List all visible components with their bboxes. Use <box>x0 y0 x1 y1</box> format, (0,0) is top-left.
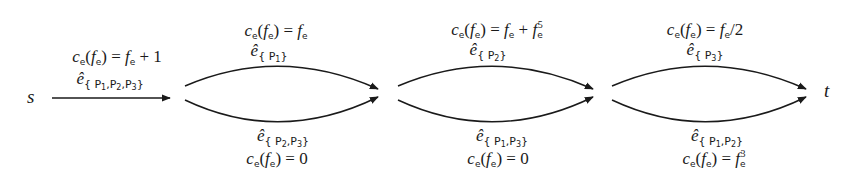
cost-label-P1P3: ce(fe) = 0 <box>467 150 528 169</box>
edge-arrow-P2P3 <box>185 97 378 122</box>
edge-label-P1P3: ê{ P1,P3} <box>476 127 528 149</box>
edge-arrow-P3 <box>612 66 806 89</box>
edge-label-P1P2P3: ê{ P1,P2,P3} <box>76 70 143 92</box>
cost-label-P1P2: ce(fe) = fe3 <box>682 149 745 169</box>
edge-label-P2P3: ê{ P2,P3} <box>257 127 309 149</box>
cost-label-P2: ce(fe) = fe + fe5 <box>451 20 542 40</box>
edge-arrow-P1 <box>185 66 378 89</box>
cost-label-P3: ce(fe) = fe/2 <box>667 21 743 40</box>
cost-label-P1: ce(fe) = fe <box>244 22 307 41</box>
edge-arrow-P1P2 <box>612 97 806 122</box>
edge-arrow-P1P3 <box>398 97 593 122</box>
node-source: s <box>27 86 34 108</box>
cost-label-P1P2P3: ce(fe) = fe + 1 <box>72 48 162 67</box>
edge-arrow-P2 <box>398 66 593 89</box>
edge-label-P1: ê{ P1} <box>251 42 288 64</box>
edge-label-P1P2: ê{ P1,P2} <box>691 127 743 149</box>
edge-label-P2: ê{ P2} <box>470 41 507 63</box>
cost-label-P2P3: ce(fe) = 0 <box>246 150 307 169</box>
node-sink: t <box>824 80 829 102</box>
edge-label-P3: ê{ P3} <box>687 41 724 63</box>
